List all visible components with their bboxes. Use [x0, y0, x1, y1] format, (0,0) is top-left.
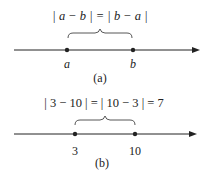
brace-b	[75, 116, 135, 125]
label-a: a	[64, 58, 70, 70]
point-10	[133, 132, 137, 136]
number-line-b	[14, 116, 197, 137]
number-line-diagrams	[0, 0, 210, 176]
point-b	[131, 48, 135, 52]
equation-a: | a − b | = | b − a |	[52, 10, 147, 22]
equation-b: | 3 − 10 | = | 10 − 3 | = 7	[44, 97, 163, 109]
brace-a	[68, 29, 132, 38]
label-10: 10	[129, 145, 141, 157]
number-line-a	[14, 29, 200, 53]
point-a	[65, 48, 69, 52]
caption-a: (a)	[93, 72, 106, 84]
label-b: b	[130, 58, 136, 70]
label-3: 3	[72, 145, 78, 157]
caption-b: (b)	[95, 157, 109, 169]
point-3	[73, 132, 77, 136]
